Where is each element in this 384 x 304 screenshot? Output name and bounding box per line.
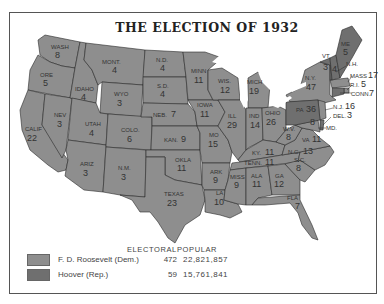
label-calif: CALIF [25, 126, 42, 132]
ev-wv: 8 [286, 132, 291, 142]
label-tenn: TENN. [244, 160, 262, 166]
ev-ark: 9 [213, 175, 218, 185]
label-md: MD. [326, 125, 337, 131]
ev-colo: 6 [127, 134, 132, 144]
label-ill: ILL [228, 113, 237, 119]
legend-popular-votes: 15,761,841 [183, 270, 228, 279]
ev-utah: 4 [89, 128, 94, 138]
label-iowa: IOWA [197, 102, 213, 108]
ev-va: 11 [312, 134, 321, 144]
label-ny: N.Y. [305, 75, 316, 81]
ev-ri: 5 [361, 79, 366, 89]
lake-superior [212, 50, 255, 68]
label-colo: COLO. [121, 127, 140, 133]
ev-ore: 5 [43, 78, 48, 88]
state-del [320, 120, 324, 130]
ev-ind: 14 [250, 120, 260, 130]
label-wyo: WYO [114, 91, 129, 97]
ev-wash: 8 [55, 50, 60, 60]
ev-wis: 12 [220, 85, 230, 95]
ev-nev: 3 [57, 119, 62, 129]
label-utah: UTAH [85, 121, 101, 127]
ev-ill: 29 [227, 120, 237, 130]
ev-ny: 47 [306, 82, 316, 92]
ev-la: 10 [214, 197, 224, 207]
ev-conn: 7 [369, 88, 374, 98]
ev-okla: 11 [177, 163, 186, 173]
legend-popular-header: POPULAR [177, 245, 217, 254]
ev-kan: 9 [181, 134, 186, 144]
legend-electoral-votes: 59 [157, 270, 177, 279]
label-kan: KAN. [164, 137, 178, 143]
ev-nh: 4 [332, 64, 337, 74]
legend-popular-votes: 22,821,857 [183, 255, 228, 264]
label-vt: VT. [322, 53, 331, 59]
ev-mont: 4 [112, 65, 117, 75]
ev-pa: 36 [306, 104, 316, 114]
label-ky: KY. [252, 150, 261, 156]
ev-del: 3 [347, 110, 352, 120]
ev-vt: 3 [323, 62, 328, 72]
ev-mo: 15 [208, 139, 218, 149]
label-nev: NEV [54, 112, 66, 118]
label-la: LA [216, 190, 223, 196]
ev-fla: 7 [295, 201, 300, 211]
label-texas: TEXAS [164, 191, 184, 197]
ev-sd: 4 [160, 89, 165, 99]
ev-wyo: 3 [117, 98, 122, 108]
state-sd [143, 77, 188, 104]
legend-electoral-header: ELECTORAL [127, 245, 177, 254]
ev-ala: 11 [252, 179, 261, 189]
ev-miss: 9 [234, 180, 239, 190]
label-ariz: ARIZ [80, 161, 94, 167]
legend-swatch-democrat [27, 254, 50, 266]
label-conn: CONN. [351, 91, 371, 97]
label-ind: IND [249, 113, 260, 119]
ev-nm: 3 [121, 172, 126, 182]
ev-neb: 7 [171, 109, 176, 119]
label-ri: R.I. [350, 82, 360, 88]
state-conn [332, 88, 344, 97]
ev-tenn: 11 [265, 157, 274, 167]
label-del: DEL. [333, 113, 347, 119]
label-mo: MO [209, 132, 219, 138]
state-fla [252, 195, 318, 240]
ev-me: 5 [343, 47, 348, 57]
legend-electoral-votes: 472 [157, 255, 177, 264]
label-neb: NEB. [153, 112, 167, 118]
label-nc: N.C. [288, 149, 300, 155]
state-wis [208, 68, 240, 100]
label-pa: PA [296, 107, 304, 113]
label-nh: N.H. [346, 61, 358, 67]
leader-nj [325, 108, 333, 110]
legend-row-hoover: Hoover (Rep.) 59 15,761,841 [27, 269, 357, 281]
state-me [336, 26, 362, 78]
ev-iowa: 11 [200, 109, 209, 119]
ev-idaho: 4 [81, 92, 86, 102]
ev-ga: 12 [274, 179, 284, 189]
legend-swatch-republican [27, 269, 50, 281]
label-minn: MINN [191, 68, 206, 74]
ev-ohio: 26 [266, 117, 276, 127]
legend-candidate: Hoover (Rep.) [58, 270, 108, 279]
label-nm: N.M. [118, 165, 131, 171]
ev-minn: 11 [194, 75, 203, 85]
ev-texas: 23 [167, 198, 177, 208]
legend-row-roosevelt: F. D. Roosevelt (Dem.) 472 22,821,857 [27, 254, 357, 266]
label-ohio: OHIO [265, 110, 281, 116]
label-mich: MICH [247, 79, 262, 85]
ev-sc: 8 [296, 163, 301, 173]
label-wis: WIS. [218, 78, 231, 84]
ev-calif: 22 [27, 133, 37, 143]
ev-nc: 13 [303, 146, 313, 156]
ev-ky: 11 [265, 147, 274, 157]
ev-nd: 4 [160, 63, 165, 73]
ev-md: 8 [310, 117, 315, 127]
label-va: VA [302, 137, 310, 143]
ev-mich: 19 [249, 86, 259, 96]
ev-ariz: 3 [83, 168, 88, 178]
ev-mass: 17 [368, 70, 378, 80]
legend-candidate: F. D. Roosevelt (Dem.) [58, 255, 139, 264]
label-nj: N.J. [333, 104, 344, 110]
